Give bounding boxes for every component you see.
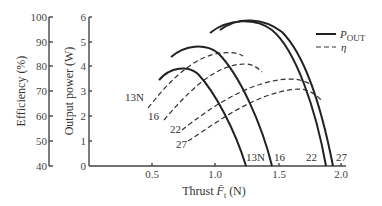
y-tick: 0	[81, 160, 87, 172]
legend: POUT η	[316, 28, 366, 53]
efficiency-axis: 100 90 80 70 60 50 40 Efficiency (%)	[14, 11, 53, 172]
y-tick: 6	[81, 11, 87, 23]
power-axis-title: Output power (W)	[62, 47, 76, 136]
power-curves: 13N 16 22 27	[159, 20, 348, 166]
x-tick: 1.0	[208, 168, 222, 180]
power-axis: 6 5 4 3 2 1 0 Output power (W)	[62, 11, 346, 172]
y-tick: 2	[81, 110, 87, 122]
y-tick: 5	[81, 36, 87, 48]
power-curve-13n	[159, 68, 246, 166]
power-label-16: 16	[274, 151, 286, 163]
y-tick: 1	[81, 135, 87, 147]
eta-label-16: 16	[148, 110, 160, 122]
y2-tick: 100	[31, 11, 48, 23]
eta-label-13n: 13N	[125, 91, 144, 103]
eta-curve-22	[182, 79, 313, 130]
x-tick: 1.5	[272, 168, 286, 180]
y2-tick: 60	[36, 110, 48, 122]
power-label-13n: 13N	[246, 151, 265, 163]
legend-label-eta: η	[341, 41, 346, 53]
efficiency-curves: 13N 16 22 27	[125, 53, 322, 150]
chart: 100 90 80 70 60 50 40 Efficiency (%) 6 5…	[0, 0, 382, 206]
x-tick: 2.0	[334, 168, 348, 180]
power-label-27: 27	[336, 151, 348, 163]
power-curve-22	[210, 21, 326, 166]
efficiency-axis-title: Efficiency (%)	[14, 56, 28, 127]
y2-tick: 70	[36, 85, 48, 97]
eta-curve-13n	[148, 53, 243, 108]
y2-tick: 50	[36, 135, 48, 147]
eta-label-27: 27	[176, 138, 188, 150]
eta-label-22: 22	[170, 123, 181, 135]
y-tick: 4	[81, 60, 87, 72]
x-tick: 0.5	[145, 168, 159, 180]
power-label-22: 22	[306, 151, 317, 163]
x-axis: 0.5 1.0 1.5 2.0 Thrust F̄t (N)	[145, 163, 348, 200]
y2-tick: 80	[36, 60, 48, 72]
y-tick: 3	[81, 85, 87, 97]
y2-tick: 40	[36, 160, 48, 172]
x-axis-title: Thrust F̄t (N)	[182, 184, 246, 200]
y2-tick: 90	[36, 36, 48, 48]
